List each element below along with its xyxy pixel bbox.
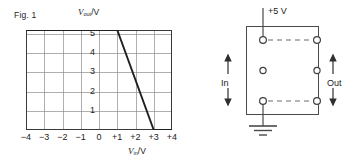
input-arrow-icon xyxy=(225,55,231,105)
pin-left-bottom[interactable] xyxy=(260,98,267,105)
pin-right-bottom[interactable] xyxy=(314,98,321,105)
x-tick-label: −3 xyxy=(35,132,53,142)
plot-area: 12345 xyxy=(26,30,172,130)
x-axis-title: Vin/V xyxy=(128,146,146,156)
pin-left-middle[interactable] xyxy=(260,67,266,73)
x-tick-label: +2 xyxy=(127,132,145,142)
output-arrow-icon xyxy=(330,55,336,105)
x-tick-label: −4 xyxy=(17,132,35,142)
circuit-svg xyxy=(196,4,354,159)
figure-caption: Fig. 1 xyxy=(14,10,36,20)
y-tick-label: 4 xyxy=(83,47,95,57)
y-tick-label: 5 xyxy=(83,28,95,38)
y-tick-label: 2 xyxy=(83,86,95,96)
x-tick-label: 0 xyxy=(90,132,108,142)
ground-icon xyxy=(249,126,277,135)
grid-lines xyxy=(26,30,172,130)
transfer-curve xyxy=(26,30,172,130)
x-tick-label: +3 xyxy=(145,132,163,142)
figure-root: Fig. 1 Vout/V Vin/V 12345 −4−3−2−10+1+2+… xyxy=(0,0,354,163)
x-tick-label: +1 xyxy=(108,132,126,142)
plot-frame xyxy=(27,31,172,130)
pin-left-top[interactable] xyxy=(260,37,267,44)
y-tick-label: 1 xyxy=(83,105,95,115)
pin-right-top[interactable] xyxy=(314,37,321,44)
y-axis-subscript: out xyxy=(84,11,92,17)
plot-svg xyxy=(26,30,172,130)
x-axis-unit: /V xyxy=(138,146,146,156)
x-tick-label: −2 xyxy=(54,132,72,142)
y-axis-title: Vout/V xyxy=(78,7,99,17)
pin-right-middle[interactable] xyxy=(314,67,320,73)
y-tick-label: 3 xyxy=(83,66,95,76)
y-axis-unit: /V xyxy=(91,7,99,17)
x-tick-label: −1 xyxy=(72,132,90,142)
circuit-diagram xyxy=(196,4,354,159)
x-tick-label: +4 xyxy=(163,132,181,142)
